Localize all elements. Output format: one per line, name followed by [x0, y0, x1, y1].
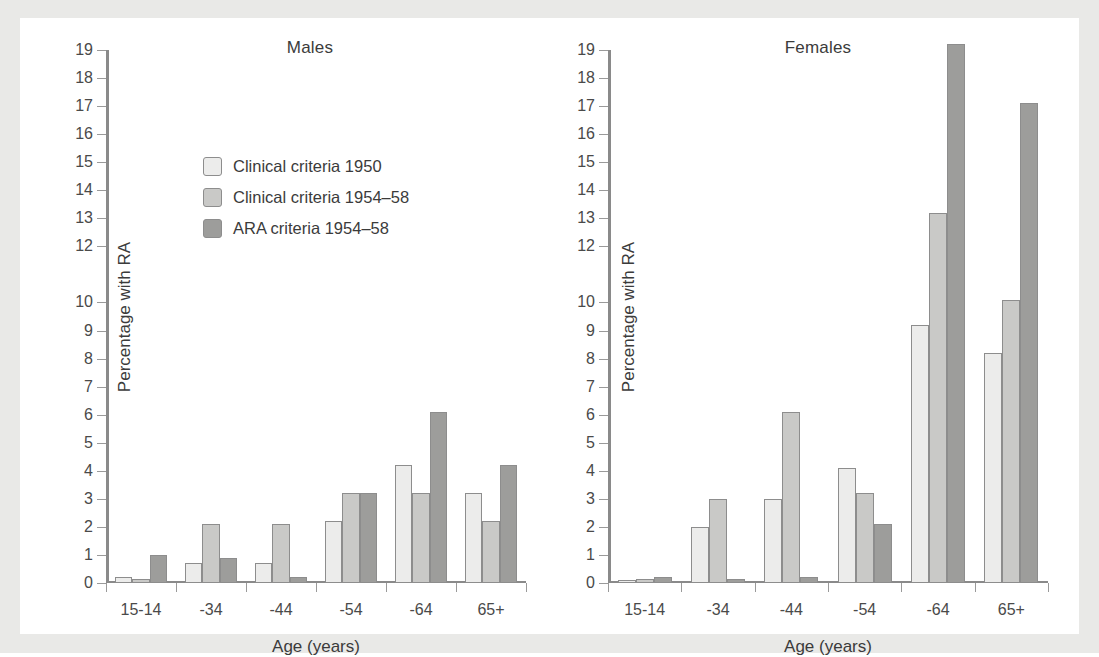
- bar: [412, 493, 429, 583]
- legend-item-clinical-1954-58: Clinical criteria 1954–58: [203, 182, 409, 213]
- y-axis-tick: [97, 387, 106, 388]
- bar: [856, 493, 874, 583]
- y-axis-tick: [599, 471, 608, 472]
- y-axis-tick: [97, 162, 106, 163]
- bar: [430, 412, 447, 583]
- legend-label-clinical-1950: Clinical criteria 1950: [233, 157, 382, 176]
- y-axis-tick-label: 13: [75, 209, 93, 227]
- x-axis-tick: [246, 583, 247, 592]
- y-axis-tick-label: 0: [84, 574, 93, 592]
- y-axis-tick-label: 1: [84, 546, 93, 564]
- y-axis-tick: [97, 527, 106, 528]
- bar: [800, 577, 818, 583]
- figure-plate: Males Percentage with RA Age (years) 012…: [20, 18, 1079, 634]
- bar: [132, 579, 149, 583]
- x-axis-tick: [975, 583, 976, 592]
- y-axis-tick: [97, 415, 106, 416]
- y-axis-tick-label: 7: [586, 378, 595, 396]
- bar: [764, 499, 782, 583]
- bar: [709, 499, 727, 583]
- y-axis-tick-label: 3: [84, 490, 93, 508]
- y-axis-tick-label: 0: [586, 574, 595, 592]
- y-axis-tick-label: 10: [75, 293, 93, 311]
- x-axis-group-label: 15-14: [121, 601, 162, 619]
- y-axis-tick-label: 7: [84, 378, 93, 396]
- y-axis-tick: [97, 50, 106, 51]
- x-axis-group-label: -34: [199, 601, 222, 619]
- bar: [202, 524, 219, 583]
- plot-area-males: Percentage with RA Age (years) 012345678…: [106, 50, 526, 583]
- y-axis-tick-label: 16: [75, 125, 93, 143]
- y-axis-tick: [97, 471, 106, 472]
- x-axis-group-label: 15-14: [624, 601, 665, 619]
- y-axis-tick: [97, 499, 106, 500]
- y-axis-tick-label: 13: [577, 209, 595, 227]
- bar: [782, 412, 800, 583]
- y-axis-tick-label: 3: [586, 490, 595, 508]
- y-axis-tick: [599, 218, 608, 219]
- y-axis-tick: [599, 302, 608, 303]
- y-axis-tick: [599, 499, 608, 500]
- y-axis-tick: [599, 106, 608, 107]
- y-axis-tick: [599, 415, 608, 416]
- y-axis-tick-label: 14: [75, 181, 93, 199]
- bar: [290, 577, 307, 583]
- bar: [636, 579, 654, 583]
- x-axis-group-label: -34: [706, 601, 729, 619]
- y-axis-tick-label: 15: [75, 153, 93, 171]
- y-axis-tick-label: 15: [577, 153, 595, 171]
- y-axis-tick: [97, 190, 106, 191]
- bar: [911, 325, 929, 583]
- y-axis-tick-label: 17: [577, 97, 595, 115]
- y-axis-tick-label: 12: [577, 237, 595, 255]
- x-axis-tick: [176, 583, 177, 592]
- bar: [395, 465, 412, 583]
- y-axis-tick: [599, 387, 608, 388]
- x-axis-tick: [901, 583, 902, 592]
- bar: [465, 493, 482, 583]
- bar: [325, 521, 342, 583]
- bar: [500, 465, 517, 583]
- x-axis-tick: [316, 583, 317, 592]
- bar: [727, 579, 745, 583]
- y-axis-tick: [97, 218, 106, 219]
- bar: [482, 521, 499, 583]
- x-axis-tick: [608, 583, 609, 592]
- y-axis-tick: [599, 331, 608, 332]
- bar: [929, 213, 947, 583]
- x-axis-group-label: -54: [339, 601, 362, 619]
- y-axis-tick: [97, 246, 106, 247]
- x-axis-title-males: Age (years): [106, 637, 526, 657]
- bar: [1020, 103, 1038, 583]
- legend-swatch-icon-ara-1954-58: [203, 219, 222, 238]
- x-axis-group-label: -44: [269, 601, 292, 619]
- y-axis-tick-label: 18: [577, 69, 595, 87]
- y-axis-tick: [97, 134, 106, 135]
- legend-item-clinical-1950: Clinical criteria 1950: [203, 151, 409, 182]
- y-axis-tick-label: 5: [586, 434, 595, 452]
- bar: [220, 558, 237, 583]
- y-axis-tick-label: 6: [586, 406, 595, 424]
- y-axis-tick-label: 8: [586, 350, 595, 368]
- x-axis-tick: [106, 583, 107, 592]
- y-axis-tick: [97, 555, 106, 556]
- x-axis-group-label: -54: [853, 601, 876, 619]
- x-axis-tick: [1048, 583, 1049, 592]
- y-axis-tick-label: 5: [84, 434, 93, 452]
- x-axis-tick: [526, 583, 527, 592]
- x-axis-group-label: -44: [780, 601, 803, 619]
- x-axis-tick: [755, 583, 756, 592]
- bar: [255, 563, 272, 583]
- y-axis-title-females: Percentage with RA: [619, 241, 639, 391]
- y-axis-tick-label: 9: [586, 322, 595, 340]
- legend-swatch-icon-clinical-1950: [203, 157, 222, 176]
- legend-swatch-icon-clinical-1954-58: [203, 188, 222, 207]
- y-axis-title-males: Percentage with RA: [115, 241, 135, 391]
- x-axis-tick: [828, 583, 829, 592]
- y-axis-tick: [97, 78, 106, 79]
- bar: [185, 563, 202, 583]
- y-axis-tick: [599, 190, 608, 191]
- y-axis-tick: [599, 50, 608, 51]
- y-axis-tick-label: 2: [586, 518, 595, 536]
- x-axis-tick: [681, 583, 682, 592]
